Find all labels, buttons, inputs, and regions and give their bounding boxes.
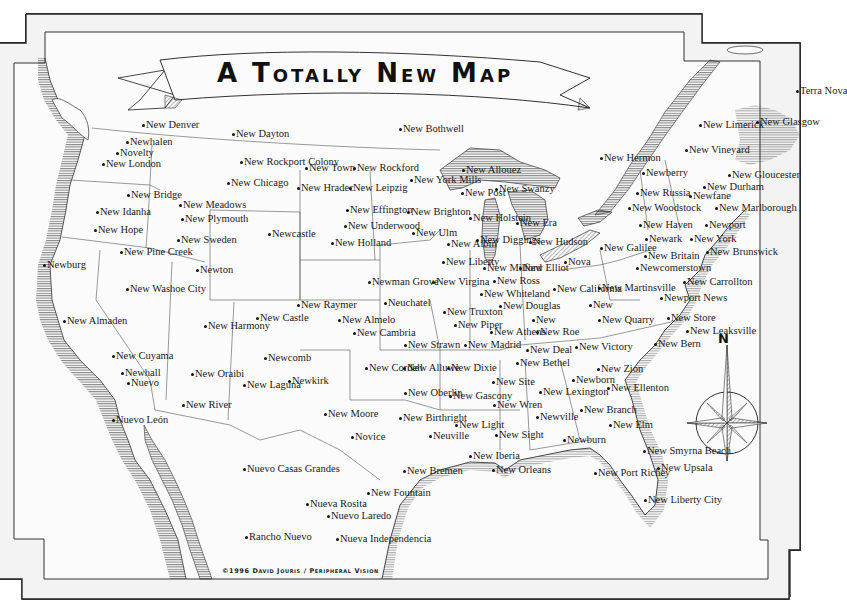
city-dot-icon xyxy=(464,344,467,347)
place-label: New Cuyama xyxy=(116,351,173,361)
city-dot-icon xyxy=(526,349,529,352)
place-label: New Dayton xyxy=(236,129,289,139)
place-label: New Site xyxy=(496,377,535,387)
city-dot-icon xyxy=(181,218,184,221)
place-label: New Hudson xyxy=(533,237,588,247)
place-label: New Russia xyxy=(640,188,690,198)
place-label: New Victory xyxy=(579,342,633,352)
city-dot-icon xyxy=(598,319,601,322)
city-dot-icon xyxy=(636,267,639,270)
place-label: New Bern xyxy=(658,339,701,349)
city-dot-icon xyxy=(429,435,432,438)
city-dot-icon xyxy=(728,174,731,177)
place-label: New Town xyxy=(309,163,355,173)
city-dot-icon xyxy=(703,186,706,189)
place-label: New Holland xyxy=(335,238,391,248)
city-dot-icon xyxy=(715,207,718,210)
place-label: New Washoe City xyxy=(130,284,206,294)
place-label: New Haven xyxy=(643,220,693,230)
city-dot-icon xyxy=(600,157,603,160)
place-label: New Carrollton xyxy=(687,277,753,287)
city-dot-icon xyxy=(403,367,406,370)
city-dot-icon xyxy=(367,492,370,495)
place-label: New Deal xyxy=(530,345,572,355)
place-label: Novelty xyxy=(120,148,154,158)
place-label: Nuevo Laredo xyxy=(331,511,391,521)
place-label: New Fountain xyxy=(371,488,431,498)
place-label: New Marlborough xyxy=(719,203,797,213)
place-label: New Quarry xyxy=(602,315,654,325)
city-dot-icon xyxy=(182,404,185,407)
city-dot-icon xyxy=(126,288,129,291)
place-label: Nova xyxy=(568,257,591,267)
place-label: New Cambria xyxy=(357,328,416,338)
place-label: Newcastle xyxy=(272,229,316,239)
city-dot-icon xyxy=(268,233,271,236)
place-label: New York xyxy=(694,234,737,244)
place-label: New Orleans xyxy=(496,465,551,475)
place-label: New Brunswick xyxy=(710,247,778,257)
place-label: New Hradec xyxy=(301,183,354,193)
place-label: New Vineyard xyxy=(689,145,750,155)
city-dot-icon xyxy=(336,538,339,541)
place-label: New Roe xyxy=(540,327,579,337)
city-dot-icon xyxy=(179,204,182,207)
place-label: New Hermon xyxy=(604,153,661,163)
place-label: New Elliot xyxy=(523,263,569,273)
city-dot-icon xyxy=(349,187,352,190)
city-dot-icon xyxy=(607,387,610,390)
city-dot-icon xyxy=(609,424,612,427)
city-dot-icon xyxy=(232,133,235,136)
place-label: New Glasgow xyxy=(760,117,820,127)
city-dot-icon xyxy=(112,355,115,358)
city-dot-icon xyxy=(204,325,207,328)
place-label: New Whiteland xyxy=(484,289,550,299)
place-label: Newberry xyxy=(646,168,688,178)
city-dot-icon xyxy=(116,152,119,155)
city-dot-icon xyxy=(243,468,246,471)
place-label: Nueva Independencia xyxy=(340,534,431,544)
place-label: New Gloucester xyxy=(732,170,800,180)
city-dot-icon xyxy=(191,373,194,376)
city-dot-icon xyxy=(639,224,642,227)
city-dot-icon xyxy=(636,192,639,195)
place-label: Newcomerstown xyxy=(640,263,711,273)
city-dot-icon xyxy=(553,288,556,291)
city-dot-icon xyxy=(288,380,291,383)
city-dot-icon xyxy=(516,222,519,225)
place-label: New Effington xyxy=(350,205,413,215)
place-label: New Zion xyxy=(601,364,643,374)
place-label: Nuevo xyxy=(131,378,159,388)
city-dot-icon xyxy=(338,319,341,322)
place-label: Nuevo León xyxy=(116,415,168,425)
place-label: New Moore xyxy=(328,409,378,419)
place-label: New Brighton xyxy=(411,207,471,217)
place-label: New Iberia xyxy=(473,451,520,461)
place-label: Newkirk xyxy=(292,376,329,386)
place-label: New Allouez xyxy=(466,165,521,175)
place-label: New Almaden xyxy=(67,316,127,326)
city-dot-icon xyxy=(536,331,539,334)
place-label: Neuchatel xyxy=(388,298,431,308)
place-label: New Liberty City xyxy=(648,495,722,505)
city-dot-icon xyxy=(240,161,243,164)
place-label: Nuevo Casas Grandes xyxy=(247,464,340,474)
city-dot-icon xyxy=(644,499,647,502)
city-dot-icon xyxy=(443,311,446,314)
place-label: New Bridge xyxy=(131,190,182,200)
place-label: New Leipzig xyxy=(353,183,408,193)
place-label: New Raymer xyxy=(301,300,357,310)
place-label: New Bethel xyxy=(520,358,570,368)
place-label: New Meadows xyxy=(183,200,246,210)
city-dot-icon xyxy=(245,536,248,539)
city-dot-icon xyxy=(324,413,327,416)
place-label: New Leaksville xyxy=(690,326,756,336)
place-label: New Pine Creek xyxy=(124,247,193,257)
place-label: New Chicago xyxy=(231,178,288,188)
place-label: New Smyrna Beach xyxy=(647,446,731,456)
city-dot-icon xyxy=(493,404,496,407)
place-label: New London xyxy=(106,159,161,169)
city-dot-icon xyxy=(442,261,445,264)
city-dot-icon xyxy=(432,281,435,284)
city-dot-icon xyxy=(177,239,180,242)
